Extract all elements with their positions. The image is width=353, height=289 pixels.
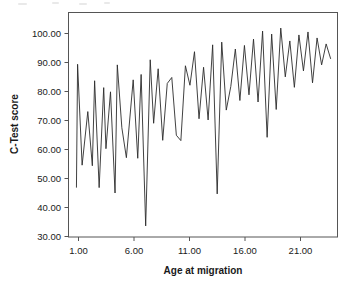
y-axis-title: C-Test score	[9, 94, 20, 154]
y-tick-label: 80.00	[37, 86, 61, 97]
y-axis-ticks	[65, 34, 69, 237]
x-tick-label: 6.00	[125, 245, 144, 256]
y-axis-tick-labels: 100.00 90.00 80.00 70.00 60.00 50.00 40.…	[32, 28, 61, 242]
x-tick-label: 16.00	[233, 245, 257, 256]
y-tick-label: 70.00	[37, 115, 61, 126]
x-axis-title: Age at migration	[164, 265, 243, 276]
y-tick-label: 60.00	[37, 144, 61, 155]
y-tick-label: 90.00	[37, 57, 61, 68]
x-tick-label: 1.00	[69, 245, 88, 256]
x-axis-tick-labels: 1.00 6.00 11.00 16.00 21.00	[69, 245, 312, 256]
plot-frame	[69, 13, 338, 238]
chart-figure: 100.00 90.00 80.00 70.00 60.00 50.00 40.…	[0, 0, 353, 289]
y-tick-label: 100.00	[32, 28, 61, 39]
line-chart: 100.00 90.00 80.00 70.00 60.00 50.00 40.…	[0, 0, 353, 289]
y-tick-label: 40.00	[37, 202, 61, 213]
y-tick-label: 30.00	[37, 231, 61, 242]
x-tick-label: 21.00	[289, 245, 313, 256]
data-series-line	[76, 28, 330, 226]
x-tick-label: 11.00	[178, 245, 201, 256]
x-axis-ticks	[79, 237, 301, 241]
y-tick-label: 50.00	[37, 173, 61, 184]
